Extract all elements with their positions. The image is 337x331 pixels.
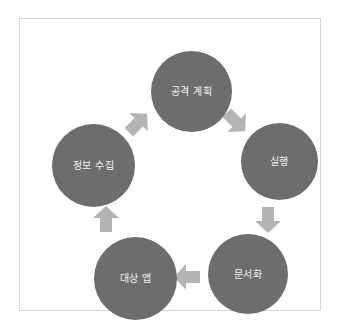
cycle-node-label: 정보 수집: [73, 160, 114, 171]
cycle-node-documentation[interactable]: 문서화: [208, 234, 288, 314]
cycle-node-target-app[interactable]: 대상 앱: [94, 237, 177, 320]
cycle-node-attack-plan[interactable]: 공격 계획: [151, 51, 232, 132]
arrow-up-icon: [91, 204, 121, 234]
cycle-node-label: 공격 계획: [171, 86, 212, 97]
cycle-node-label: 문서화: [234, 269, 262, 280]
cycle-node-label: 실행: [270, 156, 289, 167]
arrow-down-icon: [253, 205, 283, 235]
cycle-node-information-gathering[interactable]: 정보 수집: [52, 124, 135, 207]
diagram-frame: 공격 계획 실행 문서화 대상 앱 정보 수집: [19, 18, 321, 311]
cycle-node-execution[interactable]: 실행: [241, 123, 318, 200]
diagram-canvas: 공격 계획 실행 문서화 대상 앱 정보 수집: [0, 0, 337, 331]
cycle-node-label: 대상 앱: [120, 273, 151, 284]
